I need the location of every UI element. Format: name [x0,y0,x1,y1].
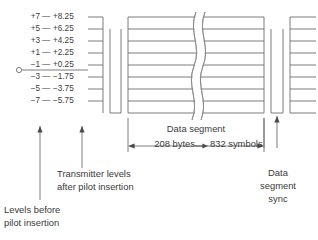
level-before-2: +3 [18,36,40,45]
segment-sync-line3: sync [248,194,308,205]
level-before-3: +1 [18,48,40,57]
left-segment-sync-pulse [103,17,128,113]
transmitter-levels-line2: after pilot insertion [57,182,181,193]
level-dash-6: — [41,84,51,93]
levels-before-line2: pilot insertion [4,218,100,229]
level-before-7: −7 [18,96,40,105]
level-after-2: +4.25 [53,36,87,45]
transmitter-levels-line1: Transmitter levels [57,169,175,180]
segment-sync-line2: segment [248,181,308,192]
level-after-6: −3.75 [53,84,87,93]
leader-levels-before [37,126,42,200]
data-segment-title: Data segment [140,124,252,135]
level-dash-2: — [41,36,51,45]
right-segment-sync-pulse [264,17,290,113]
figure-8vsb-data-segment: +7 +5 +3 +1 −1 −3 −5 −7 — — — — — — — — … [0,0,318,240]
data-segment-bytes: 208 bytes [139,139,195,150]
leader-transmitter-levels [79,126,84,168]
level-stub-lines [88,17,103,101]
level-before-1: +5 [18,24,40,33]
level-before-6: −5 [18,84,40,93]
data-segment-symbols: 832 symbols [210,139,270,150]
level-dash-7: — [41,96,51,105]
level-dash-5: — [41,72,51,81]
leader-segment-sync [274,116,279,148]
level-after-7: −5.75 [53,96,87,105]
level-after-4: +0.25 [53,60,87,69]
level-before-0: +7 [18,12,40,21]
bytes-to-symbols-arrow [195,144,208,149]
level-after-0: +8.25 [53,12,87,21]
level-dash-0: — [41,12,51,21]
level-after-3: +2.25 [53,48,87,57]
level-dash-3: — [41,48,51,57]
level-after-1: +6.25 [53,24,87,33]
level-dash-4: — [41,60,51,69]
level-after-5: −1.75 [53,72,87,81]
level-before-4: −1 [18,60,40,69]
break-squiggle-mask [196,12,201,120]
segment-sync-line1: Data [248,168,308,179]
level-before-5: −3 [18,72,40,81]
level-dash-1: — [41,24,51,33]
right-level-stubs [290,17,316,113]
levels-before-line1: Levels before [4,205,100,216]
